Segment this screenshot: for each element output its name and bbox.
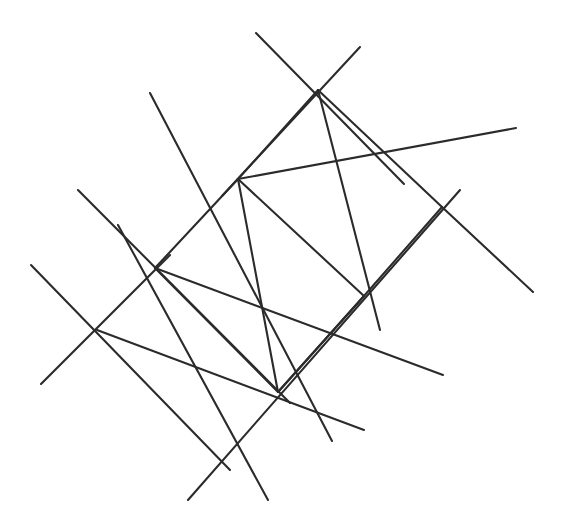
line-figure-canvas xyxy=(0,0,563,530)
figure-root xyxy=(0,0,563,530)
figure-background xyxy=(0,0,563,530)
